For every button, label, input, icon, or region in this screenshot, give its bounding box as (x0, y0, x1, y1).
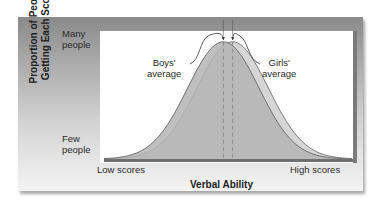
y-axis-title-line-2: Getting Each Score (40, 0, 52, 104)
y-axis-title: Proportion of People Getting Each Score (28, 0, 52, 104)
annotation-girls-line-2: average (262, 68, 296, 79)
x-tick-label-low: Low scores (97, 164, 145, 175)
chart-svg (0, 0, 377, 224)
annotation-girls-average: Girls' average (262, 57, 296, 79)
y-tick-few-line-2: people (62, 144, 91, 155)
area-boys (104, 42, 352, 159)
y-axis-title-line-1: Proportion of People (28, 0, 40, 104)
y-tick-few-line-1: Few (62, 133, 91, 144)
y-tick-many-line-2: people (62, 39, 91, 50)
y-tick-label-few: Few people (62, 133, 91, 155)
annotation-boys-line-1: Boys' (147, 57, 181, 68)
x-tick-label-high: High scores (290, 164, 340, 175)
annotation-boys-line-2: average (147, 68, 181, 79)
x-axis-title: Verbal Ability (190, 179, 253, 190)
y-tick-label-many: Many people (62, 28, 91, 50)
annotation-boys-average: Boys' average (147, 57, 181, 79)
annotation-girls-line-1: Girls' (262, 57, 296, 68)
y-tick-many-line-1: Many (62, 28, 91, 39)
